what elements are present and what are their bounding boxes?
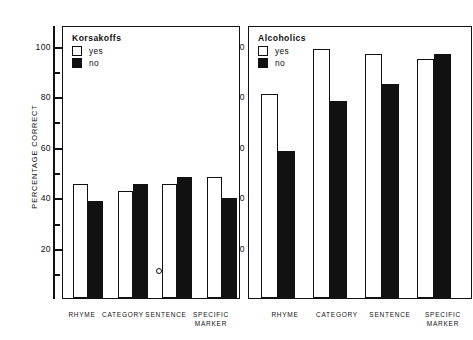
bar-group <box>207 27 241 298</box>
bar-group <box>365 27 403 298</box>
x-label-specific-marker-right: SPECIFIC MARKER <box>417 311 469 328</box>
y-tick-70 <box>54 122 60 124</box>
x-label-specific-marker-left: SPECIFIC MARKER <box>186 311 236 328</box>
y-tick-label-100: 100 <box>11 42 51 52</box>
y-tick-label-80: 80 <box>11 92 51 102</box>
bar-group <box>118 27 152 298</box>
bar-group <box>313 27 351 298</box>
y-tick-label-40: 40 <box>11 193 51 203</box>
y-tick-50 <box>54 173 60 175</box>
bar <box>313 49 330 298</box>
bar <box>133 184 148 298</box>
bar-group <box>73 27 107 298</box>
bar <box>177 177 192 298</box>
bar <box>88 201 103 298</box>
x-label-sentence-left: SENTENCE <box>141 311 191 320</box>
bars-alcoholics <box>249 27 471 298</box>
bar-group <box>417 27 455 298</box>
bars-korsakoffs <box>63 27 239 298</box>
x-label-category-right: CATEGORY <box>311 311 363 320</box>
bar <box>330 101 347 298</box>
bar-chart-figure: PERCENTAGE CORRECT 100 80 60 40 20 100 8… <box>0 0 473 340</box>
x-label-sentence-right: SENTENCE <box>364 311 416 320</box>
bar <box>417 59 434 298</box>
y-axis-spine <box>53 26 55 299</box>
bar <box>434 54 451 298</box>
bar <box>73 184 88 298</box>
y-tick-label-20: 20 <box>11 244 51 254</box>
x-label-specific-line1: SPECIFIC <box>417 311 469 320</box>
bar <box>278 151 295 298</box>
bar <box>365 54 382 298</box>
scan-speck-artifact <box>156 268 162 274</box>
x-label-specific-line2: MARKER <box>417 320 469 329</box>
y-tick-10 <box>54 274 60 276</box>
y-axis-title: PERCENTAGE CORRECT <box>30 57 39 257</box>
y-tick-90 <box>54 72 60 74</box>
y-tick-30 <box>54 224 60 226</box>
bar <box>162 184 177 298</box>
x-label-specific-line1: SPECIFIC <box>186 311 236 320</box>
bar <box>222 198 237 298</box>
bar <box>118 191 133 298</box>
y-tick-label-60: 60 <box>11 143 51 153</box>
panel-korsakoffs: Korsakoffs yes no <box>62 26 240 299</box>
bar <box>207 177 222 298</box>
bar-group <box>261 27 299 298</box>
x-label-specific-line2: MARKER <box>186 320 236 329</box>
bar <box>261 94 278 298</box>
bar-group <box>162 27 196 298</box>
panel-alcoholics: Alcoholics yes no <box>248 26 472 299</box>
x-label-rhyme-right: RHYME <box>263 311 307 320</box>
bar <box>382 84 399 298</box>
